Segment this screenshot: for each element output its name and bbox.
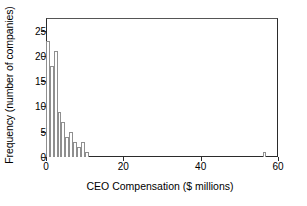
x-tick-mark xyxy=(278,157,279,161)
x-tick-label: 0 xyxy=(34,161,58,172)
x-tick-label: 20 xyxy=(111,161,135,172)
y-axis-label-text: Frequency (number of companies) xyxy=(3,6,15,163)
histogram-bar xyxy=(85,152,89,157)
y-axis-label: Frequency (number of companies) xyxy=(0,0,18,170)
y-axis-ticks: 0510152025 xyxy=(22,0,46,206)
histogram-figure: Frequency (number of companies) 05101520… xyxy=(0,0,307,206)
x-tick-label: 40 xyxy=(189,161,213,172)
histogram-bar xyxy=(263,152,267,157)
x-tick-mark xyxy=(123,157,124,161)
x-tick-mark xyxy=(201,157,202,161)
x-axis-label: CEO Compensation ($ millions) xyxy=(40,180,280,192)
x-tick-mark xyxy=(46,157,47,161)
histogram-bars xyxy=(46,18,278,157)
x-tick-label: 60 xyxy=(266,161,290,172)
